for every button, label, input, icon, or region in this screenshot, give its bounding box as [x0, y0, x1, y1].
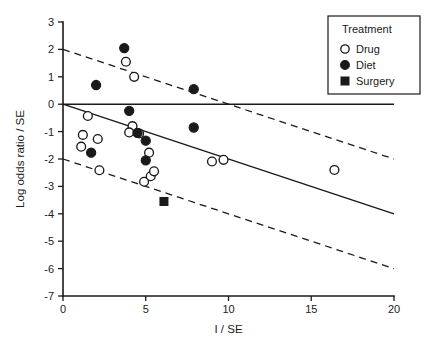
y-tick-label-0: 0: [48, 98, 54, 110]
x-tick-label-10: 10: [222, 303, 234, 315]
data-point-diet-6[interactable]: [87, 148, 96, 157]
data-point-diet-2[interactable]: [125, 106, 134, 115]
x-tick-label-20: 20: [388, 303, 400, 315]
legend-label-diet: Diet: [356, 59, 376, 71]
legend-marker-surgery: [341, 77, 349, 85]
data-point-diet-5[interactable]: [141, 156, 150, 165]
data-point-diet-1[interactable]: [120, 43, 129, 52]
data-point-drug-5[interactable]: [121, 57, 130, 66]
data-point-drug-0[interactable]: [78, 130, 87, 139]
data-point-drug-2[interactable]: [83, 112, 92, 121]
x-axis-title: I / SE: [214, 323, 242, 335]
legend-title: Treatment: [342, 23, 392, 35]
data-point-diet-7[interactable]: [189, 85, 198, 94]
funnel-plot-figure: 3210-1-2-3-4-5-6-705101520I / SELog odds…: [0, 0, 427, 345]
data-point-diet-3[interactable]: [133, 128, 142, 137]
y-tick-label-3: 3: [48, 16, 54, 28]
y-tick-label--4: -4: [44, 208, 54, 220]
data-point-diet-4[interactable]: [141, 136, 150, 145]
y-tick-label-2: 2: [48, 43, 54, 55]
y-tick-label--3: -3: [44, 180, 54, 192]
y-tick-label--6: -6: [44, 263, 54, 275]
data-point-drug-14[interactable]: [208, 157, 217, 166]
data-point-drug-16[interactable]: [330, 166, 339, 175]
data-point-drug-12[interactable]: [150, 167, 159, 176]
y-tick-label--7: -7: [44, 290, 54, 302]
x-tick-label-5: 5: [143, 303, 149, 315]
data-point-drug-1[interactable]: [77, 142, 86, 151]
x-tick-label-0: 0: [60, 303, 66, 315]
y-tick-label--5: -5: [44, 235, 54, 247]
legend-label-drug: Drug: [356, 43, 380, 55]
y-tick-label-1: 1: [48, 71, 54, 83]
data-point-drug-8[interactable]: [125, 128, 134, 137]
scatter-plot-canvas: 3210-1-2-3-4-5-6-705101520I / SELog odds…: [0, 0, 427, 345]
y-axis-title: Log odds ratio / SE: [14, 110, 26, 208]
x-tick-label-15: 15: [305, 303, 317, 315]
legend-marker-drug: [341, 45, 349, 53]
legend-marker-diet: [341, 61, 350, 70]
data-point-diet-8[interactable]: [189, 123, 198, 132]
data-point-drug-4[interactable]: [95, 166, 104, 175]
lower-confidence-limit: [63, 159, 394, 269]
data-point-drug-3[interactable]: [93, 135, 102, 144]
y-tick-label--2: -2: [44, 153, 54, 165]
data-point-drug-15[interactable]: [219, 155, 228, 164]
data-point-diet-0[interactable]: [92, 80, 101, 89]
y-tick-label--1: -1: [44, 126, 54, 138]
legend-label-surgery: Surgery: [356, 75, 395, 87]
data-point-surgery-0[interactable]: [160, 197, 168, 205]
data-point-drug-6[interactable]: [130, 72, 139, 81]
